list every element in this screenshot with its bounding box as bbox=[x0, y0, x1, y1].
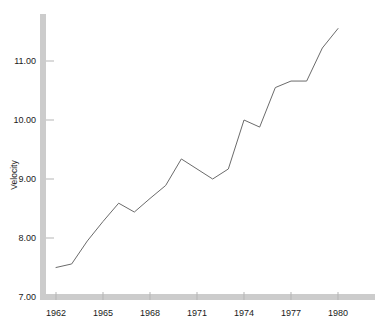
x-tick-label-1977: 1977 bbox=[281, 308, 301, 318]
x-tick-label-1965: 1965 bbox=[93, 308, 113, 318]
x-axis-labels: 1962 1965 1968 1971 1974 1977 1980 bbox=[46, 308, 348, 318]
x-axis-bar bbox=[40, 294, 375, 300]
velocity-line-series bbox=[56, 29, 338, 268]
y-tick-label-11: 11.00 bbox=[14, 56, 36, 66]
x-tick-label-1971: 1971 bbox=[187, 308, 207, 318]
x-tick-label-1968: 1968 bbox=[140, 308, 160, 318]
y-tick-label-10: 10.00 bbox=[13, 115, 36, 125]
x-tick-label-1974: 1974 bbox=[234, 308, 254, 318]
y-axis-title: Velocity bbox=[9, 160, 19, 190]
y-tick-label-9: 9.00 bbox=[18, 174, 36, 184]
y-tick-label-7: 7.00 bbox=[18, 292, 36, 302]
x-tick-label-1980: 1980 bbox=[328, 308, 348, 318]
y-tick-label-8: 8.00 bbox=[18, 233, 36, 243]
y-axis-ticks bbox=[46, 61, 54, 238]
line-chart: 11.00 10.00 9.00 8.00 7.00 Velocity 1962… bbox=[0, 0, 375, 329]
x-tick-label-1962: 1962 bbox=[46, 308, 66, 318]
y-axis-bar bbox=[40, 14, 46, 300]
chart-container: 11.00 10.00 9.00 8.00 7.00 Velocity 1962… bbox=[0, 0, 375, 329]
